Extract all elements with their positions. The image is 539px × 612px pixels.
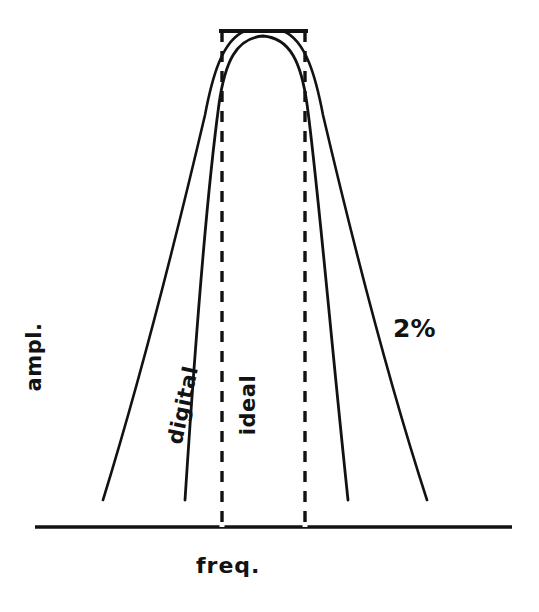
ideal-response-rectangle xyxy=(222,31,305,527)
y-axis-label-text: ampl. xyxy=(22,307,46,407)
ideal-curve-label: ideal xyxy=(198,385,298,425)
filter-response-plot xyxy=(0,0,539,612)
tolerance-2pct-label: 2% xyxy=(393,314,435,343)
x-axis-label: freq. xyxy=(196,553,260,578)
digital-response-curve xyxy=(185,36,348,500)
ideal-curve-label-text: ideal xyxy=(236,355,260,455)
y-axis-label: ampl. xyxy=(14,305,54,405)
figure-canvas: ampl. freq. 2% digital ideal xyxy=(0,0,539,612)
tolerance-2pct-curve xyxy=(103,31,427,500)
